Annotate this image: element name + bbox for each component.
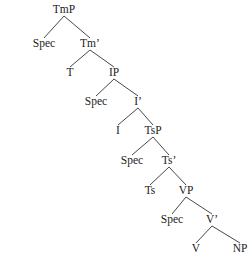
tree-edge [153, 137, 169, 155]
tree-edge [212, 226, 240, 243]
tree-node-vp: VP [179, 185, 194, 197]
tree-node-spec3: Spec [121, 155, 143, 167]
tree-node-ip: IP [109, 67, 119, 79]
tree-edge [196, 226, 212, 243]
tree-node-np: NP [233, 243, 248, 255]
tree-edge [150, 167, 169, 185]
tree-node-i-bar: I’ [134, 96, 142, 108]
tree-edge [96, 79, 114, 96]
tree-node-ts: Ts [145, 185, 156, 197]
tree-node-v-bar: V’ [206, 214, 218, 226]
tree-edge [44, 16, 64, 38]
tree-edge [70, 50, 90, 67]
tree-edge [118, 108, 138, 125]
tree-edge [114, 79, 138, 96]
tree-node-spec4: Spec [161, 214, 183, 226]
tree-edge [186, 197, 212, 214]
tree-node-spec2: Spec [85, 96, 107, 108]
tree-edge [132, 137, 153, 155]
tree-edge [172, 197, 186, 214]
tree-node-v: V [192, 243, 200, 255]
tree-edge [90, 50, 114, 67]
syntax-tree-diagram: TmPSpecTm’TIPSpecI’ITsPSpecTs’TsVPSpecV’… [0, 0, 252, 262]
tree-node-t: T [66, 67, 73, 79]
tree-node-ts-bar: Ts’ [162, 155, 177, 167]
tree-node-tmp: TmP [53, 4, 75, 16]
tree-node-tsp: TsP [144, 125, 161, 137]
tree-edge [64, 16, 90, 38]
tree-edge [169, 167, 186, 185]
tree-edge [138, 108, 153, 125]
tree-node-spec1: Spec [33, 38, 55, 50]
tree-node-i: I [116, 125, 120, 137]
tree-node-tm-bar: Tm’ [80, 38, 100, 50]
